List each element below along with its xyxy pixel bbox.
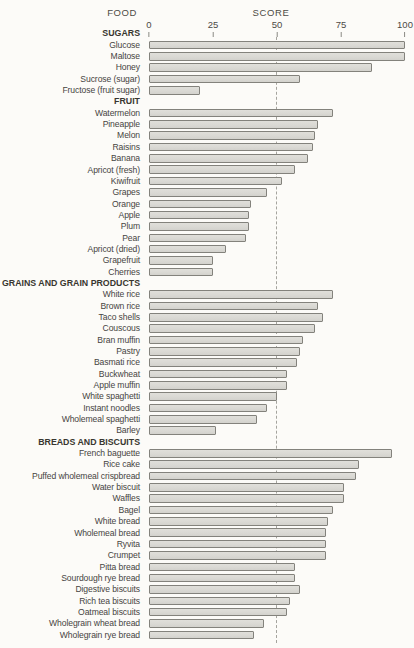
food-label: Cherries [0, 268, 140, 277]
axis-tick-label: 50 [272, 19, 283, 30]
bar-row: Wholemeal bread [0, 527, 414, 538]
score-bar [149, 358, 297, 367]
score-bar [149, 131, 315, 140]
score-bar [149, 200, 251, 209]
bar-row: White rice [0, 289, 414, 300]
food-label: Basmati rice [0, 358, 140, 367]
axis-tick-mark [212, 32, 213, 37]
bar-area [149, 561, 405, 572]
food-label: Pineapple [0, 120, 140, 129]
score-bar [149, 415, 257, 424]
axis-tick-25: 25 [208, 20, 219, 37]
score-bar [149, 86, 200, 95]
food-label: Kiwifruit [0, 177, 140, 186]
bar-area [149, 198, 405, 209]
food-label: Raisins [0, 143, 140, 152]
food-label: Wholegrain wheat bread [0, 619, 140, 628]
food-label: Wholemeal spaghetti [0, 415, 140, 424]
bar-area [149, 312, 405, 323]
bar-area [149, 85, 405, 96]
bar-row: Barley [0, 425, 414, 436]
score-bar [149, 347, 300, 356]
bar-area [149, 414, 405, 425]
score-bar [149, 143, 313, 152]
axis-tick-mark [404, 32, 405, 37]
bar-area [149, 119, 405, 130]
score-bar [149, 381, 287, 390]
score-bar [149, 551, 326, 560]
category-row: FRUIT [0, 96, 414, 107]
food-label: Maltose [0, 52, 140, 61]
axis-tick-mark [148, 32, 149, 37]
bar-area [149, 402, 405, 413]
food-label: Wholemeal bread [0, 529, 140, 538]
bar-row: White spaghetti [0, 391, 414, 402]
axis-tick-75: 75 [336, 20, 347, 37]
bar-area [149, 244, 405, 255]
bar-row: Raisins [0, 141, 414, 152]
bar-row: Apricot (dried) [0, 244, 414, 255]
axis-tick-label: 75 [336, 19, 347, 30]
score-bar [149, 154, 308, 163]
food-label: Grapefruit [0, 256, 140, 265]
food-label: Brown rice [0, 302, 140, 311]
bar-row: Banana [0, 153, 414, 164]
food-label: Watermelon [0, 109, 140, 118]
glycemic-index-bar-chart: FOOD SCORE 0255075100 SUGARSGlucoseMalto… [0, 0, 414, 648]
bar-area [149, 175, 405, 186]
food-label: Fructose (fruit sugar) [0, 86, 140, 95]
bar-row: Kiwifruit [0, 175, 414, 186]
score-bar [149, 506, 333, 515]
bar-area [149, 323, 405, 334]
bar-area [149, 187, 405, 198]
bar-area [149, 130, 405, 141]
food-label: Honey [0, 63, 140, 72]
bar-row: Couscous [0, 323, 414, 334]
food-label: White bread [0, 517, 140, 526]
score-column-header: SCORE [143, 7, 399, 18]
bar-area [149, 107, 405, 118]
bar-area [149, 141, 405, 152]
axis-tick-0: 0 [146, 20, 151, 37]
score-bar [149, 597, 290, 606]
score-bar [149, 234, 246, 243]
bar-area [149, 164, 405, 175]
food-label: Taco shells [0, 313, 140, 322]
score-bar [149, 631, 254, 640]
bar-row: Oatmeal biscuits [0, 607, 414, 618]
food-label: French baguette [0, 449, 140, 458]
bar-area [149, 391, 405, 402]
bar-row: Glucose [0, 39, 414, 50]
food-label: Glucose [0, 41, 140, 50]
score-bar [149, 404, 267, 413]
score-bar [149, 483, 344, 492]
category-label: BREADS AND BISCUITS [0, 438, 140, 447]
chart-rows: SUGARSGlucoseMaltoseHoneySucrose (sugar)… [0, 28, 414, 641]
axis-tick-100: 100 [397, 20, 413, 37]
food-label: Pear [0, 234, 140, 243]
bar-area [149, 425, 405, 436]
bar-row: Apple [0, 210, 414, 221]
bar-area [149, 504, 405, 515]
food-label: Puffed wholemeal crispbread [0, 472, 140, 481]
bar-row: Brown rice [0, 300, 414, 311]
bar-area [149, 595, 405, 606]
food-label: Banana [0, 154, 140, 163]
score-bar [149, 75, 300, 84]
bar-area [149, 368, 405, 379]
score-bar [149, 517, 328, 526]
bar-row: Maltose [0, 51, 414, 62]
score-bar [149, 63, 372, 72]
score-bar [149, 177, 282, 186]
bar-row: Wholemeal spaghetti [0, 414, 414, 425]
bar-area [149, 346, 405, 357]
bar-area [149, 232, 405, 243]
score-bar [149, 528, 326, 537]
bar-row: Ryvita [0, 538, 414, 549]
bar-area [149, 470, 405, 481]
bar-row: Water biscuit [0, 482, 414, 493]
bar-row: Cherries [0, 266, 414, 277]
score-bar [149, 540, 326, 549]
bar-row: Sucrose (sugar) [0, 73, 414, 84]
bar-area [149, 210, 405, 221]
